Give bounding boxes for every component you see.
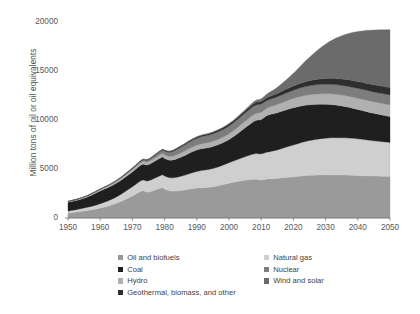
y-tick-label: 15000 <box>12 66 58 75</box>
legend-item[interactable]: Geothermal, biomass, and other <box>118 287 236 299</box>
area-series-group <box>68 30 390 218</box>
legend-swatch-icon <box>264 278 269 283</box>
y-tick-label: 20000 <box>12 17 58 26</box>
legend-swatch-icon <box>264 255 269 260</box>
stacked-area-chart <box>0 0 420 250</box>
legend-item[interactable]: Nuclear <box>264 264 324 276</box>
y-tick-label: 5000 <box>12 164 58 173</box>
legend-column-left: Oil and biofuelsCoalHydro <box>118 252 180 287</box>
legend-item[interactable]: Natural gas <box>264 252 324 264</box>
legend-swatch-icon <box>118 290 123 295</box>
chart-legend: Oil and biofuelsCoalHydro Natural gasNuc… <box>118 252 418 310</box>
y-tick-label: 10000 <box>12 115 58 124</box>
legend-item-geothermal: Geothermal, biomass, and other <box>118 287 236 299</box>
plot-area: Million tons of oil or oil equivalents 0… <box>0 0 420 250</box>
legend-item-label: Coal <box>127 266 143 274</box>
legend-swatch-icon <box>118 267 123 272</box>
legend-item[interactable]: Hydro <box>118 275 180 287</box>
y-tick-label: 0 <box>12 213 58 222</box>
chart-figure: Million tons of oil or oil equivalents 0… <box>0 0 420 314</box>
legend-item-label: Natural gas <box>273 254 312 262</box>
legend-swatch-icon <box>264 267 269 272</box>
legend-item[interactable]: Oil and biofuels <box>118 252 180 264</box>
legend-item[interactable]: Wind and solar <box>264 275 324 287</box>
legend-item-label: Wind and solar <box>273 277 324 285</box>
legend-item-label: Hydro <box>127 277 147 285</box>
legend-item-label: Oil and biofuels <box>127 254 179 262</box>
legend-item-label: Nuclear <box>273 266 299 274</box>
legend-item-label: Geothermal, biomass, and other <box>127 289 235 297</box>
legend-swatch-icon <box>118 255 123 260</box>
y-axis-title: Million tons of oil or oil equivalents <box>29 18 38 208</box>
legend-item[interactable]: Coal <box>118 264 180 276</box>
legend-swatch-icon <box>118 278 123 283</box>
legend-column-right: Natural gasNuclearWind and solar <box>264 252 324 287</box>
x-tick-label: 2050 <box>370 223 410 232</box>
